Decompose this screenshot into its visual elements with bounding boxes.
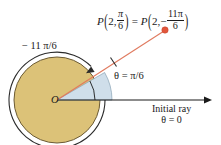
- angle-numerator-right: 11π: [167, 9, 184, 21]
- point-coordinates-label: P(2,π6) = P(2,−11π6): [97, 9, 189, 31]
- polar-coordinate-figure: P(2,π6) = P(2,−11π6) − 11 π/6 θ = π/6 O …: [0, 0, 221, 145]
- close-paren-left: ): [125, 13, 128, 31]
- theta-angle-label: θ = π/6: [114, 71, 144, 82]
- negative-angle-label: − 11 π/6: [22, 41, 57, 52]
- angle-fraction-right: 11π6: [167, 9, 184, 31]
- angle-denominator-left: 6: [117, 21, 124, 32]
- angle-denominator-right: 6: [167, 21, 184, 32]
- angle-numerator-left: π: [117, 9, 124, 21]
- origin-label: O: [51, 95, 59, 106]
- open-paren-right: (: [148, 13, 151, 31]
- close-paren-right: ): [185, 13, 188, 31]
- point-name-left: P: [97, 15, 104, 27]
- initial-ray-text: Initial ray: [152, 103, 191, 114]
- equals-sign: =: [132, 15, 138, 27]
- open-paren-left: (: [104, 13, 107, 31]
- minus-sign-right: −: [160, 15, 166, 27]
- initial-ray-angle-text: θ = 0: [152, 115, 191, 125]
- initial-ray-arrowhead: [204, 97, 212, 104]
- point-name-right: P: [141, 15, 148, 27]
- initial-ray-caption: Initial ray θ = 0: [152, 104, 191, 125]
- angle-fraction-left: π6: [117, 9, 124, 31]
